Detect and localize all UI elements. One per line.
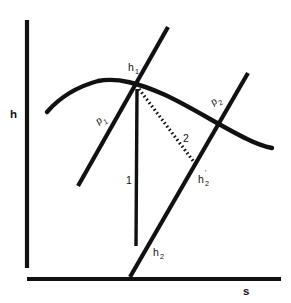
state-h2-prime-label-base: h: [198, 173, 204, 185]
isobar-p1-line: [78, 27, 168, 186]
state-h2-label-base: h: [153, 246, 159, 258]
pressure-p1-label-subscript: 1: [102, 117, 110, 127]
pressure-p1-label: p 1: [94, 112, 110, 129]
process-1-label: 1: [126, 174, 132, 186]
process-2-label: 2: [183, 132, 189, 144]
mollier-diagram-figure: h s h 1 h 2 h 2 ' p 1 p 2 1: [0, 0, 291, 303]
actual-expansion-process-line: [139, 89, 197, 166]
state-h2-label-subscript: 2: [160, 252, 164, 261]
state-h2-prime-label-subscript: 2: [205, 179, 209, 188]
y-axis-label: h: [10, 108, 17, 120]
state-h2-prime-label-prime: ': [205, 168, 207, 177]
isobar-p2-line: [130, 73, 248, 277]
x-axis-label: s: [243, 285, 249, 297]
state-h2-label: h 2: [153, 246, 164, 261]
pressure-p2-label: p 2: [209, 93, 225, 110]
pressure-p2-label-subscript: 2: [217, 98, 225, 108]
isentropic-process-line: [136, 89, 137, 246]
state-h1-label-subscript: 1: [135, 67, 139, 76]
mollier-diagram-canvas: h s h 1 h 2 h 2 ' p 1 p 2 1: [0, 0, 291, 303]
state-h2-prime-label: h 2 ': [198, 168, 209, 188]
state-h1-label-base: h: [128, 61, 134, 73]
state-h1-label: h 1: [128, 61, 139, 76]
